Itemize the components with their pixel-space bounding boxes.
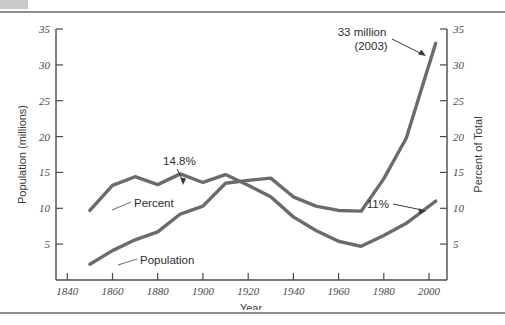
plot-area: 35 30 25 20 15 10 5 35 30 25 20 15 10 [0, 13, 505, 310]
percent-leader-line [112, 202, 131, 210]
x-tick-label-1960: 1960 [328, 285, 351, 297]
x-tick-label-1880: 1880 [147, 285, 170, 297]
population-leader-line [118, 259, 137, 265]
annotation-end-percent: 11% [367, 198, 389, 210]
y-tick-label-20: 20 [39, 131, 51, 143]
y-axis-title: Population (millions) [16, 105, 28, 204]
x-tick-label-2000: 2000 [418, 285, 441, 297]
series-label-population: Population [140, 254, 194, 266]
x-tick-label-1900: 1900 [192, 285, 215, 297]
annotation-population-arrowhead [418, 49, 426, 56]
annotation-population-value: 33 million [338, 26, 387, 38]
x-tick-label-1920: 1920 [237, 285, 260, 297]
y2-tick-label-35: 35 [452, 23, 465, 35]
annotation-peak-percent: 14.8% [163, 155, 196, 167]
series-line-population [90, 43, 436, 264]
series-label-percent: Percent [134, 197, 174, 209]
x-tick-label-1980: 1980 [373, 285, 396, 297]
x-axis-ticks [67, 273, 429, 280]
right-axis-ticks [440, 29, 447, 244]
y2-tick-label-20: 20 [453, 131, 465, 143]
y-tick-label-10: 10 [39, 202, 51, 214]
left-axis-ticks [56, 29, 63, 244]
y2-tick-label-15: 15 [453, 166, 465, 178]
y-tick-label-25: 25 [39, 95, 51, 107]
corner-tab [0, 0, 28, 9]
annotation-population-year: (2003) [354, 40, 387, 52]
figure-container: 35 30 25 20 15 10 5 35 30 25 20 15 10 [0, 0, 505, 325]
y2-tick-label-5: 5 [453, 238, 459, 250]
bottom-rule [0, 312, 505, 314]
y-tick-label-35: 35 [38, 23, 51, 35]
x-tick-label-1940: 1940 [282, 285, 305, 297]
y2-tick-label-25: 25 [453, 95, 465, 107]
y-tick-label-30: 30 [38, 59, 51, 71]
annotation-peak-percent-arrowhead [180, 178, 186, 185]
annotation-end-percent-arrow-line [393, 204, 422, 210]
annotation-population-arrow-line [392, 39, 422, 54]
y-tick-label-5: 5 [45, 238, 51, 250]
y2-axis-title: Percent of Total [472, 116, 484, 192]
x-tick-label-1840: 1840 [56, 285, 79, 297]
y-tick-label-15: 15 [39, 166, 51, 178]
x-axis-title: Year [240, 302, 263, 310]
series-line-percent [90, 174, 436, 246]
y2-tick-label-30: 30 [452, 59, 465, 71]
x-tick-label-1860: 1860 [102, 285, 125, 297]
line-chart: 35 30 25 20 15 10 5 35 30 25 20 15 10 [0, 13, 505, 310]
y2-tick-label-10: 10 [453, 202, 465, 214]
